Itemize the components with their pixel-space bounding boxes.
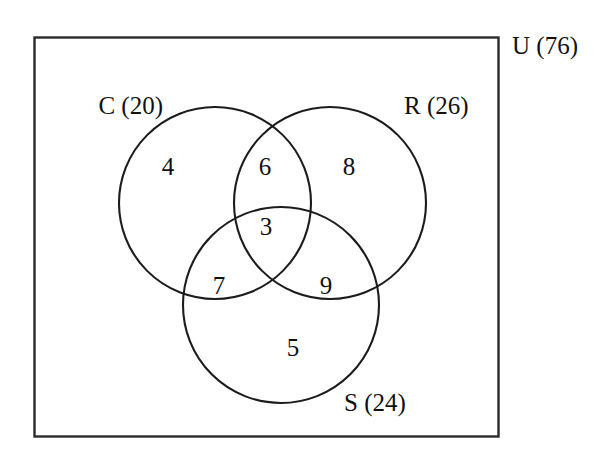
region-count-c-r-s: 3 — [260, 213, 273, 240]
region-count-r-only: 8 — [343, 153, 356, 180]
region-count-s-only: 5 — [287, 334, 300, 361]
set-circle-c — [119, 107, 311, 299]
venn-diagram-canvas: U (76) C (20) R (26) S (24) 4 6 8 3 7 9 … — [0, 0, 613, 463]
venn-diagram-figure: U (76) C (20) R (26) S (24) 4 6 8 3 7 9 … — [0, 0, 613, 463]
set-label-r: R (26) — [404, 92, 469, 120]
region-count-r-and-s: 9 — [320, 272, 333, 299]
universal-set-label: U (76) — [512, 32, 578, 60]
set-circle-r — [234, 107, 426, 299]
set-circle-s — [183, 207, 379, 403]
set-label-s: S (24) — [344, 389, 406, 417]
set-label-c: C (20) — [98, 92, 163, 120]
region-count-c-and-r: 6 — [259, 153, 272, 180]
region-count-c-and-s: 7 — [213, 272, 226, 299]
region-count-c-only: 4 — [162, 153, 175, 180]
